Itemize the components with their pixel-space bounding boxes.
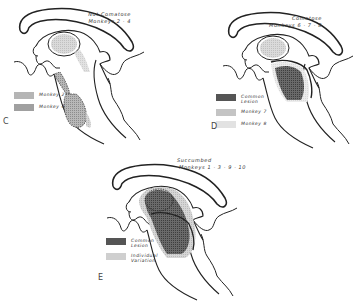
swatch-monkey-2 [14,92,34,99]
legend-label: Common Lesion [241,94,264,104]
legend-label: Individual Variation [131,253,158,263]
legend-label: Monkey 8 [241,121,267,126]
panel-c: Not Comatose Monkeys 2 · 4 Monkey 2 Monk… [0,0,171,150]
title-line-1: Comatose [265,15,322,22]
title-line-1: Not Comatose [82,11,131,18]
panel-title-e: Succumbed Monkeys 1 · 3 · 9 · 10 [177,157,246,171]
legend-label: Monkey 7 [241,109,267,114]
panel-e: Succumbed Monkeys 1 · 3 · 9 · 10 Common … [85,150,256,304]
legend-item: Monkey 8 [216,121,267,128]
title-line-2: Monkeys 1 · 3 · 9 · 10 [177,164,246,171]
swatch-common-lesion [106,238,126,245]
swatch-monkey-7 [216,109,236,116]
legend-item: Common Lesion [216,94,267,104]
panel-letter-d: D [211,122,217,131]
legend-label: Monkey 4 [39,104,65,109]
title-line-1: Succumbed [177,157,246,164]
legend-c: Monkey 2 Monkey 4 [14,92,65,116]
legend-e: Common Lesion Individual Variation [106,238,158,268]
panel-title-d: Comatose Monkeys 6 · 7 · 8 [265,15,322,29]
legend-item: Monkey 7 [216,109,267,116]
brainstem-diagram-c [6,2,156,147]
brainstem-diagram-e [99,158,249,303]
legend-label: Monkey 2 [39,92,65,97]
swatch-common-lesion [216,94,236,101]
legend-item: Monkey 4 [14,104,65,111]
swatch-monkey-4 [14,104,34,111]
swatch-individual-variation [106,253,126,260]
legend-label: Common Lesion [131,238,154,248]
panel-d: Comatose Monkeys 6 · 7 · 8 Common Lesion… [171,0,342,150]
panel-letter-c: C [3,117,9,126]
panel-title-c: Not Comatose Monkeys 2 · 4 [82,11,131,25]
legend-d: Common Lesion Monkey 7 Monkey 8 [216,94,267,133]
title-line-2: Monkeys 6 · 7 · 8 [265,22,322,29]
legend-item: Monkey 2 [14,92,65,99]
panel-letter-e: E [98,273,103,282]
title-line-2: Monkeys 2 · 4 [82,18,131,25]
legend-item: Common Lesion [106,238,158,248]
swatch-monkey-8 [216,121,236,128]
legend-item: Individual Variation [106,253,158,263]
